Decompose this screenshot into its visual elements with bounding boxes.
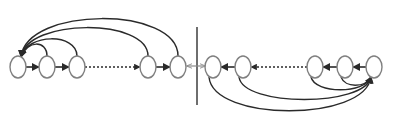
right-chain-node — [337, 56, 353, 78]
chain-diagram — [0, 0, 393, 126]
right-chain-node — [205, 56, 221, 78]
left-chain-node — [10, 56, 26, 78]
right-chain-node — [235, 56, 251, 78]
left-chain-node — [140, 56, 156, 78]
left-back-arc — [21, 19, 178, 57]
diagram-canvas — [0, 0, 393, 126]
left-back-arc — [21, 39, 77, 57]
left-chain-node — [39, 56, 55, 78]
left-chain-node — [69, 56, 85, 78]
left-chain-node — [170, 56, 186, 78]
divider — [187, 27, 205, 105]
right-chain-node — [307, 56, 323, 78]
right-chain-node — [366, 56, 382, 78]
